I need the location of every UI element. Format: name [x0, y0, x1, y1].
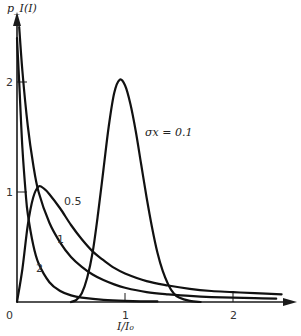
curve-label-0.5: 0.5: [64, 195, 82, 208]
chart: 01212 p_I(I) I/I₀ σx = 0.1 0.5 1 2: [0, 0, 301, 336]
x-axis-arrow-icon: [283, 298, 297, 306]
x-tick-label: 2: [230, 309, 237, 322]
x-tick-label: 0: [6, 309, 13, 322]
curves: [17, 27, 282, 302]
y-tick-label: 1: [6, 186, 13, 199]
y-tick-label: 2: [6, 76, 13, 89]
y-axis-label: p_I(I): [7, 2, 37, 15]
curve-label-sigma-0.1: σx = 0.1: [145, 126, 192, 139]
curve-series-2: [19, 27, 276, 299]
curve-series-0: [71, 79, 201, 302]
curve-label-1: 1: [57, 233, 64, 246]
curve-label-2: 2: [36, 262, 43, 275]
x-axis-label: I/I₀: [116, 320, 134, 333]
